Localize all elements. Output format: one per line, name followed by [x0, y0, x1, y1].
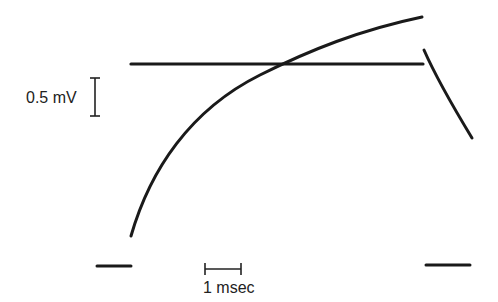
rising-potential-curve	[131, 17, 422, 236]
time-scale-label: 1 msec	[203, 279, 255, 297]
voltage-scale-bar	[90, 78, 100, 116]
decaying-potential-curve	[424, 50, 472, 138]
time-scale-bar	[205, 263, 241, 275]
voltage-scale-label: 0.5 mV	[26, 89, 77, 107]
trace-figure	[0, 0, 498, 302]
